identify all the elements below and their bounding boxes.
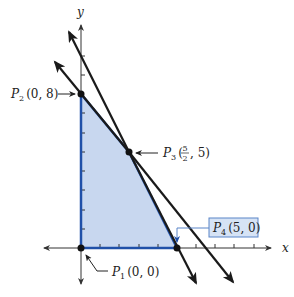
y-axis-label: y [76, 5, 84, 19]
fraction-denominator: 2 [182, 154, 187, 163]
vertex-p3 [126, 149, 133, 156]
vertex-p1 [78, 245, 85, 252]
label-p3: P3( 5 2 , 5) [136, 144, 210, 163]
svg-text:P2(0, 8): P2(0, 8) [10, 87, 58, 103]
svg-text:P1(0, 0): P1(0, 0) [111, 265, 159, 281]
leader-arrow-p4 [177, 228, 210, 242]
svg-text:P3(: P3( [162, 146, 183, 162]
fraction-numerator: 5 [182, 144, 187, 153]
x-axis-label: x [282, 241, 289, 255]
feasible-region-figure: x y P2(0, 8) P3( 5 2 , 5) [0, 0, 294, 297]
svg-text:, 5): , 5) [190, 146, 210, 160]
feasible-region [81, 94, 177, 248]
svg-text:P4(5, 0): P4(5, 0) [212, 221, 260, 237]
label-p4: P4(5, 0) [177, 218, 260, 242]
leader-arrow-p1 [86, 255, 108, 271]
vertex-p2 [78, 91, 85, 98]
vertex-p4 [174, 245, 181, 252]
label-p1: P1(0, 0) [86, 255, 159, 281]
label-p2: P2(0, 8) [10, 87, 75, 103]
